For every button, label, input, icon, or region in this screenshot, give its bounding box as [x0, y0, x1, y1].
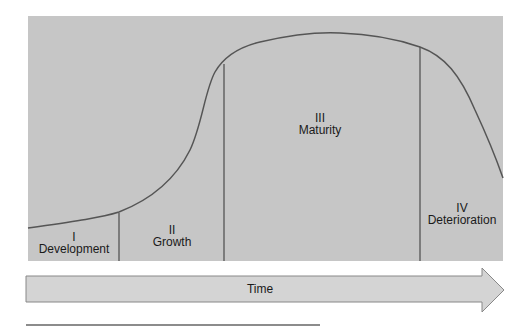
stage-label-development: I Development [30, 231, 118, 255]
lifecycle-diagram [0, 0, 529, 327]
stage-name: Development [30, 243, 118, 255]
stage-name: Growth [120, 236, 224, 248]
stage-label-growth: II Growth [120, 224, 224, 248]
time-axis-label: Time [230, 282, 290, 296]
stage-label-deterioration: IV Deterioration [421, 202, 503, 226]
stage-name: Maturity [290, 124, 350, 136]
stage-label-maturity: III Maturity [290, 112, 350, 136]
stage-name: Deterioration [421, 214, 503, 226]
